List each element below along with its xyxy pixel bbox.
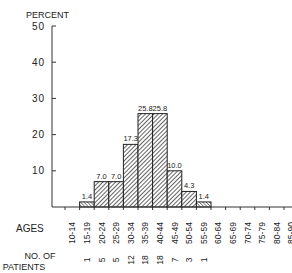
patient-count: 18 bbox=[155, 255, 165, 265]
x-category-label: 65-69 bbox=[228, 222, 238, 244]
x-category-label: 35-39 bbox=[140, 222, 150, 244]
x-axis-title: AGES bbox=[16, 223, 44, 234]
bar-value-label: 7.0 bbox=[96, 172, 106, 181]
patient-count: 5 bbox=[111, 257, 121, 262]
patient-count: 1 bbox=[199, 257, 209, 262]
bar-value-label: 17.3 bbox=[123, 134, 138, 143]
y-tick-label: 50 bbox=[32, 21, 45, 32]
x-category-label: 45-49 bbox=[170, 222, 180, 244]
x-category-label: 10-14 bbox=[67, 222, 77, 244]
x-category-label: 25-29 bbox=[111, 222, 121, 244]
bar: 7.0 bbox=[109, 172, 124, 207]
x-axis: 10-1415-19120-24525-29530-341235-391840-… bbox=[52, 207, 292, 265]
patient-count: 12 bbox=[126, 255, 136, 265]
bar: 1.4 bbox=[196, 192, 211, 207]
bar-value-label: 1.4 bbox=[82, 192, 92, 201]
bar: 4.3 bbox=[182, 181, 197, 207]
patient-count: 3 bbox=[184, 257, 194, 262]
bar: 10.0 bbox=[167, 161, 182, 207]
x-category-label: 40-44 bbox=[155, 222, 165, 244]
x-category-label: 80-84 bbox=[272, 222, 282, 244]
bar-value-label: 10.0 bbox=[167, 161, 182, 170]
bar: 25.8 bbox=[138, 104, 153, 207]
x-category-label: 55-59 bbox=[199, 222, 209, 244]
bar: 25.8 bbox=[153, 104, 168, 207]
bars: 1.47.07.017.325.825.810.04.31.4 bbox=[80, 104, 211, 207]
y-tick-label: 30 bbox=[32, 93, 45, 104]
bar: 1.4 bbox=[80, 192, 95, 207]
bar: 7.0 bbox=[94, 172, 109, 207]
y-tick-label: 20 bbox=[32, 129, 45, 140]
x-category-label: 70-74 bbox=[243, 222, 253, 244]
bar-value-label: 25.8 bbox=[153, 104, 168, 113]
y-axis: 1020304050 bbox=[32, 21, 56, 208]
bar-value-label: 7.0 bbox=[111, 172, 121, 181]
patient-count: 5 bbox=[97, 257, 107, 262]
patients-row-title-line1: NO. OF bbox=[25, 251, 57, 261]
y-axis-title: PERCENT bbox=[26, 10, 70, 20]
x-category-label: 85-90 bbox=[286, 222, 292, 244]
x-category-label: 30-34 bbox=[126, 222, 136, 244]
x-category-label: 50-54 bbox=[184, 222, 194, 244]
bar: 17.3 bbox=[123, 134, 138, 207]
x-category-label: 75-79 bbox=[257, 222, 267, 244]
y-tick-label: 40 bbox=[32, 57, 45, 68]
patients-row-title-line2: PATIENTS bbox=[3, 262, 46, 272]
bar-value-label: 25.8 bbox=[138, 104, 153, 113]
bar-value-label: 4.3 bbox=[184, 181, 194, 190]
x-category-label: 60-64 bbox=[213, 222, 223, 244]
y-tick-label: 10 bbox=[32, 165, 45, 176]
age-distribution-histogram: PERCENT 1020304050 1.47.07.017.325.825.8… bbox=[0, 0, 292, 273]
patient-count: 18 bbox=[140, 255, 150, 265]
x-category-label: 15-19 bbox=[82, 222, 92, 244]
bar-value-label: 1.4 bbox=[198, 192, 208, 201]
x-category-label: 20-24 bbox=[97, 222, 107, 244]
patient-count: 1 bbox=[82, 257, 92, 262]
patient-count: 7 bbox=[170, 257, 180, 262]
